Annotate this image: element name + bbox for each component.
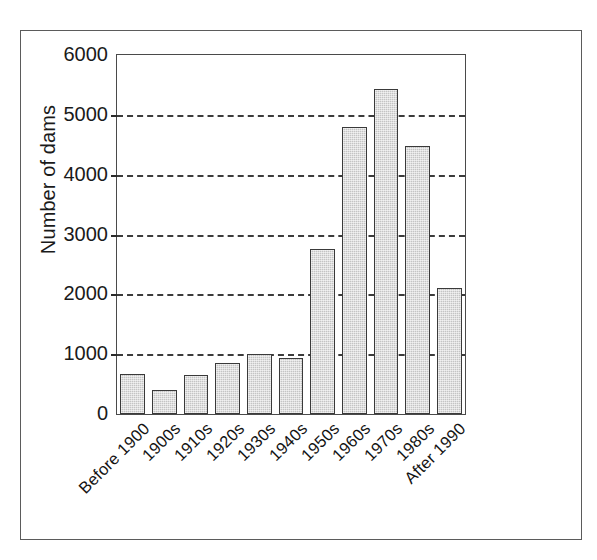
y-tick-label: 0	[46, 403, 108, 423]
bar	[374, 89, 399, 414]
y-tick-label: 6000	[46, 44, 108, 64]
y-tick-mark	[111, 115, 117, 117]
y-tick-mark	[111, 235, 117, 237]
bar	[437, 288, 462, 414]
y-tick-mark	[111, 294, 117, 296]
x-axis-tick-labels: Before 19001900s1910s1920s1930s1940s1950…	[116, 413, 464, 533]
figure-canvas: Number of dams 0100020003000400050006000…	[0, 0, 597, 560]
bar	[310, 249, 335, 414]
bar	[405, 146, 430, 414]
bars-group	[117, 55, 465, 414]
bar	[342, 127, 367, 414]
y-tick-label: 3000	[46, 224, 108, 244]
y-axis-tick-labels: 0100020003000400050006000	[46, 42, 108, 422]
bar	[247, 354, 272, 414]
y-tick-label: 5000	[46, 104, 108, 124]
y-tick-label: 2000	[46, 283, 108, 303]
bar	[152, 390, 177, 414]
bar	[279, 358, 304, 414]
y-tick-label: 1000	[46, 343, 108, 363]
bar	[215, 363, 240, 414]
plot-area	[116, 54, 466, 415]
y-tick-mark	[111, 175, 117, 177]
bar	[184, 375, 209, 414]
y-tick-label: 4000	[46, 164, 108, 184]
y-tick-mark	[111, 354, 117, 356]
bar	[120, 374, 145, 414]
